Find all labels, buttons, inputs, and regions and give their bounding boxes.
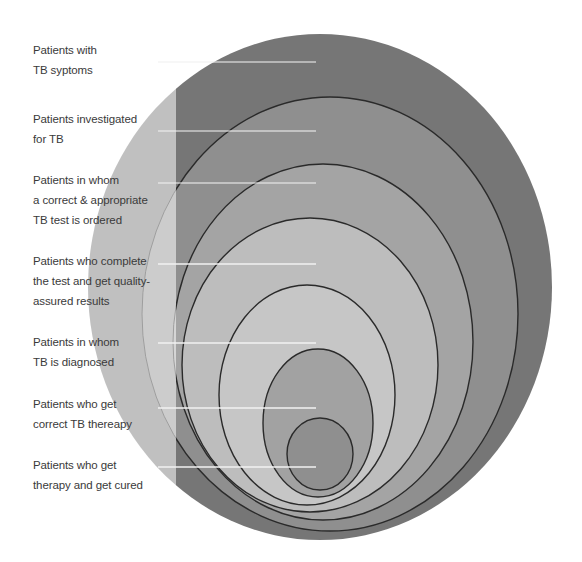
label-test-ordered: Patients in whom a correct & appropriate… <box>33 170 148 230</box>
label-investigated: Patients investigated for TB <box>33 109 137 149</box>
ring-7 <box>287 418 353 490</box>
label-cured: Patients who get therapy and get cured <box>33 455 143 495</box>
label-test-completed: Patients who complete the test and get q… <box>33 251 150 311</box>
label-tb-symptoms: Patients with TB syptoms <box>33 40 97 80</box>
label-diagnosed: Patients in whom TB is diagnosed <box>33 332 119 372</box>
label-correct-therapy: Patients who get correct TB thereapy <box>33 394 132 434</box>
